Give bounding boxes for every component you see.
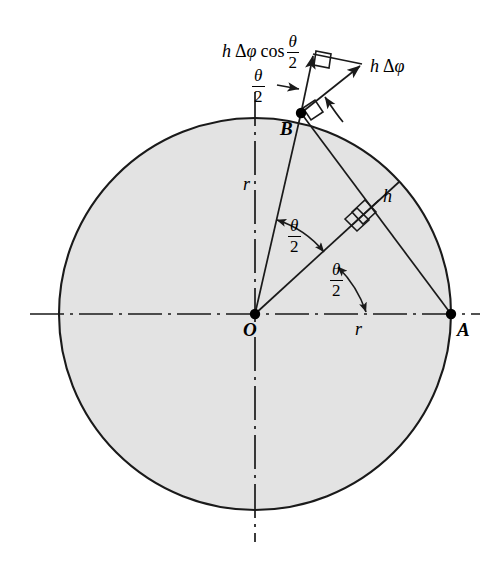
geometry-diagram xyxy=(0,0,501,564)
fraction-numerator: θ xyxy=(288,217,301,235)
fraction-theta-over-two-lower: θ2 xyxy=(330,261,343,300)
expr-delta: Δ xyxy=(235,41,247,61)
expr-cos: cos xyxy=(261,41,285,61)
fraction-numerator: θ xyxy=(287,33,300,51)
point-label-b: B xyxy=(280,119,293,138)
angle-pointer-at-b xyxy=(277,85,299,89)
angle-label-upper-o: θ2 xyxy=(288,218,301,257)
curved-arrow-at-b xyxy=(325,97,343,122)
fraction-denominator: 2 xyxy=(252,88,265,106)
vector-triangle-closing-side xyxy=(313,54,362,64)
figure-container: hΔφcosθ2 hΔφ θ2 θ2 θ2 B O A r r h xyxy=(0,0,501,564)
point-marker-a xyxy=(446,309,456,319)
angle-label-lower-o: θ2 xyxy=(330,262,343,301)
label-height-h: h xyxy=(383,187,392,205)
fraction-denominator: 2 xyxy=(287,54,300,72)
point-marker-b xyxy=(296,108,306,118)
point-marker-o xyxy=(250,309,260,319)
fraction-theta-over-two-expr: θ2 xyxy=(287,33,300,72)
label-h-delta-phi: hΔφ xyxy=(370,56,405,77)
expr-h-resultant: h xyxy=(370,56,379,76)
expr-phi: φ xyxy=(247,41,257,61)
angle-label-at-b: θ2 xyxy=(252,68,265,107)
fraction-theta-over-two-upper: θ2 xyxy=(288,217,301,256)
expr-h: h xyxy=(222,41,231,61)
expr-phi-resultant: φ xyxy=(395,56,405,76)
fraction-denominator: 2 xyxy=(330,282,343,300)
fraction-denominator: 2 xyxy=(288,238,301,256)
right-angle-mark-vector-tip xyxy=(314,51,331,68)
fraction-theta-over-two-b: θ2 xyxy=(252,67,265,106)
expr-delta-resultant: Δ xyxy=(383,56,395,76)
fraction-numerator: θ xyxy=(330,261,343,279)
fraction-numerator: θ xyxy=(252,67,265,85)
label-radius-ob: r xyxy=(243,175,250,193)
label-radius-oa: r xyxy=(355,320,362,338)
point-label-o: O xyxy=(243,320,257,339)
point-label-a: A xyxy=(457,320,470,339)
